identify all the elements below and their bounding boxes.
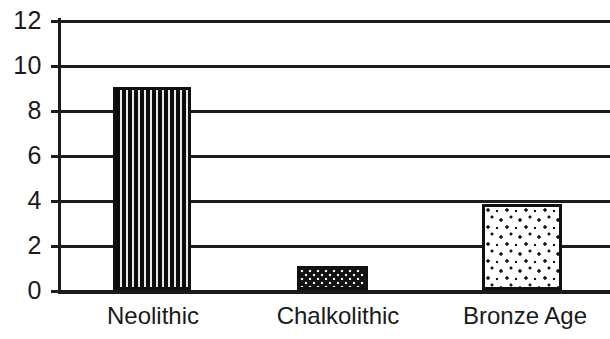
bar-neolithic[interactable] <box>113 87 191 290</box>
y-axis-tick-label-10: 10 <box>0 53 42 78</box>
bar-chalkolithic[interactable] <box>297 266 368 290</box>
y-axis-tick-label-0: 0 <box>0 278 42 303</box>
bar-chart: 12 10 8 6 4 2 0 Neolithic Chalkolithic B… <box>0 0 610 339</box>
y-axis-tick-label-8: 8 <box>0 98 42 123</box>
bar-bronze-age[interactable] <box>482 204 562 290</box>
y-axis-tick-label-2: 2 <box>0 233 42 258</box>
x-axis-label-neolithic: Neolithic <box>93 303 213 329</box>
y-axis-tick-label-6: 6 <box>0 143 42 168</box>
gridline-10 <box>58 65 610 68</box>
y-axis-tick-label-12: 12 <box>0 8 42 33</box>
plot-area <box>58 20 610 290</box>
x-axis-label-chalkolithic: Chalkolithic <box>268 303 408 329</box>
y-axis-tick-label-4: 4 <box>0 188 42 213</box>
gridline-12 <box>58 20 610 23</box>
x-axis-label-bronze-age: Bronze Age <box>455 303 595 329</box>
gridline-0-baseline <box>58 290 610 294</box>
